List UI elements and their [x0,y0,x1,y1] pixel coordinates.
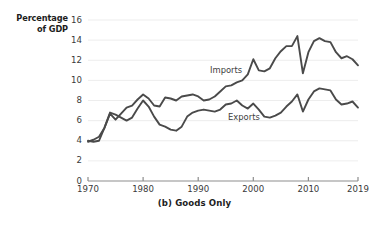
y-axis-title-line-2: of GDP [2,24,68,35]
plot-svg [88,20,358,181]
y-tick-label-16: 16 [64,16,82,25]
x-tick-label-1990: 1990 [178,185,218,194]
x-tick-label-2000: 2000 [233,185,273,194]
y-tick-label-12: 12 [64,56,82,65]
x-tick-label-2010: 2010 [288,185,328,194]
x-tick-label-2019: 2019 [338,185,378,194]
y-tick-label-4: 4 [64,136,82,145]
series-label-exports: Exports [228,112,260,122]
x-tick-label-1980: 1980 [123,185,163,194]
x-tick-label-1970: 1970 [68,185,108,194]
y-tick-label-10: 10 [64,76,82,85]
plot-area [88,20,358,181]
series-line-exports [88,88,358,141]
y-tick-label-6: 6 [64,116,82,125]
chart-caption: (b) Goods Only [0,198,389,208]
series-label-imports: Imports [210,65,242,75]
y-tick-label-2: 2 [64,156,82,165]
y-axis-title: Percentage of GDP [2,13,68,34]
series-lines [88,36,358,142]
y-axis-title-line-1: Percentage [2,13,68,24]
y-tick-label-14: 14 [64,36,82,45]
chart-figure: Percentage of GDP 0246810121416 19701980… [0,0,389,225]
y-tick-label-8: 8 [64,96,82,105]
